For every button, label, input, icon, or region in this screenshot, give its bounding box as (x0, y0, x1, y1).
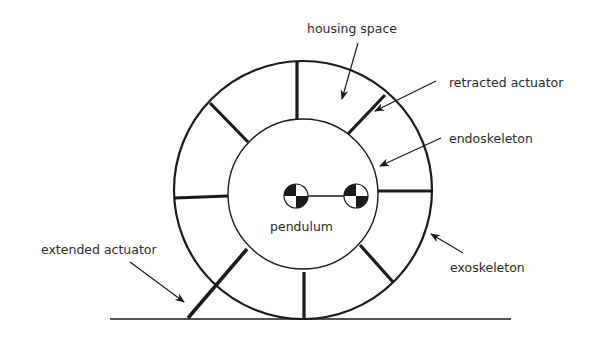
arrow-housing-space (342, 43, 358, 99)
actuator-upper-right (348, 95, 385, 134)
pendulum-mass-right-icon (344, 184, 368, 208)
arrow-endoskeleton (380, 138, 441, 166)
actuator-left (175, 196, 228, 198)
arrow-exoskeleton (431, 234, 463, 253)
arrow-extended-actuator (130, 262, 184, 302)
pendulum (284, 184, 368, 208)
actuator-extended (188, 249, 247, 318)
label-endoskeleton: endoskeleton (449, 131, 533, 146)
label-housing-space: housing space (307, 21, 397, 36)
actuator-upper-left (210, 103, 248, 142)
label-exoskeleton: exoskeleton (450, 260, 525, 275)
actuator-lower-right (360, 245, 393, 282)
label-retracted-actuator: retracted actuator (449, 75, 564, 90)
pendulum-mass-left-icon (284, 184, 308, 208)
label-pendulum: pendulum (270, 219, 333, 234)
robot-wheel-diagram: housing space retracted actuator endoske… (0, 0, 613, 340)
label-extended-actuator: extended actuator (41, 242, 157, 257)
